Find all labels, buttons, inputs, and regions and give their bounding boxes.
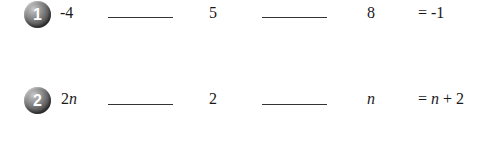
result: = n + 2 [418,89,464,109]
term-1: -4 [60,3,73,23]
term-3: 8 [367,3,375,23]
answer-blank-1[interactable] [108,17,173,18]
answer-blank-2[interactable] [262,104,327,105]
problem-row-1: 1 -4 5 8 = -1 [0,0,484,30]
answer-blank-2[interactable] [262,17,327,18]
term-2: 2 [209,89,217,109]
term-3: n [367,89,375,109]
term-2: 5 [209,3,217,23]
result: = -1 [418,3,444,23]
result-equals: = [418,90,431,107]
result-rest: + 2 [439,90,464,107]
problem-number-badge: 1 [24,1,51,28]
term-1-variable: n [69,90,77,107]
term-1: 2n [61,89,77,109]
problem-row-2: 2 2n 2 n = n + 2 [0,86,484,116]
result-variable: n [431,90,439,107]
problem-number-badge: 2 [24,87,51,114]
term-1-coefficient: 2 [61,90,69,107]
answer-blank-1[interactable] [108,104,173,105]
